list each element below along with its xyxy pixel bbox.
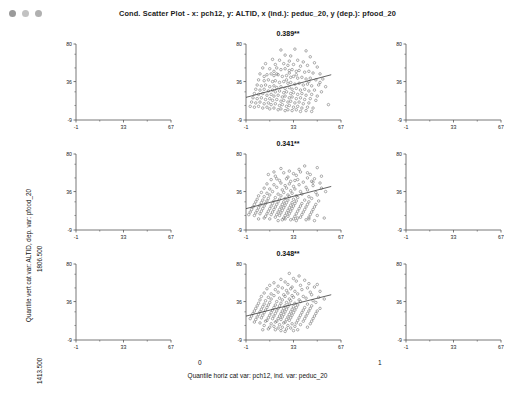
svg-text:67: 67: [338, 344, 344, 350]
scatter-points: [249, 272, 326, 333]
panel-axes: -93680-13367: [392, 250, 504, 358]
y-quantile-top-label: 1806.500: [36, 246, 43, 272]
svg-text:-1: -1: [404, 234, 409, 240]
window-title: Cond. Scatter Plot - x: pch12, y: ALTID,…: [0, 9, 515, 18]
svg-text:36: 36: [396, 299, 402, 305]
svg-text:-1: -1: [74, 344, 79, 350]
svg-text:-1: -1: [404, 344, 409, 350]
svg-text:-9: -9: [67, 117, 72, 123]
svg-text:33: 33: [291, 234, 297, 240]
y-axis-caption-block: Quantile vert cat var: ALTID, dep. var: …: [14, 122, 48, 322]
panel-axes: -93680-13367: [392, 140, 504, 248]
svg-text:67: 67: [338, 124, 344, 130]
svg-text:-9: -9: [237, 117, 242, 123]
svg-text:67: 67: [168, 344, 174, 350]
svg-text:-1: -1: [244, 234, 249, 240]
svg-text:67: 67: [338, 234, 344, 240]
svg-text:-1: -1: [74, 234, 79, 240]
title-bar: Cond. Scatter Plot - x: pch12, y: ALTID,…: [0, 0, 515, 27]
svg-text:-9: -9: [237, 227, 242, 233]
app-window: Cond. Scatter Plot - x: pch12, y: ALTID,…: [0, 0, 515, 404]
svg-text:36: 36: [236, 299, 242, 305]
scatter-points: [249, 48, 330, 113]
svg-text:67: 67: [498, 124, 504, 130]
svg-text:-9: -9: [237, 337, 242, 343]
x-axis-caption: Quantile horiz cat var: pch12, ind. var:…: [0, 372, 515, 379]
panel-axes: -93680-13367: [392, 30, 504, 138]
svg-text:67: 67: [168, 234, 174, 240]
svg-text:33: 33: [451, 344, 457, 350]
y-axis-caption: Quantile vert cat var: ALTID, dep. var: …: [25, 189, 32, 322]
svg-text:33: 33: [121, 234, 127, 240]
svg-text:-1: -1: [244, 344, 249, 350]
svg-text:-1: -1: [244, 124, 249, 130]
svg-text:36: 36: [396, 79, 402, 85]
panel-axes: -93680-13367: [232, 250, 344, 358]
svg-text:80: 80: [236, 41, 242, 47]
svg-text:-9: -9: [67, 227, 72, 233]
svg-text:36: 36: [66, 299, 72, 305]
scatter-panel-r2-c2: -93680-13367: [392, 250, 504, 358]
svg-text:80: 80: [396, 151, 402, 157]
svg-text:36: 36: [236, 79, 242, 85]
svg-text:33: 33: [291, 124, 297, 130]
plot-canvas: -93680-133670.389**-93680-13367-93680-13…: [0, 27, 515, 404]
x-quantile-right-label: 1: [378, 359, 382, 366]
svg-text:-1: -1: [74, 124, 79, 130]
scatter-panel-r1-c0: -93680-13367: [62, 140, 174, 248]
panel-axes: -93680-13367: [62, 250, 174, 358]
svg-text:80: 80: [236, 151, 242, 157]
panel-axes: -93680-13367: [232, 140, 344, 248]
scatter-panel-r0-c0: -93680-13367: [62, 30, 174, 138]
svg-text:67: 67: [498, 344, 504, 350]
svg-text:36: 36: [396, 189, 402, 195]
panel-axes: -93680-13367: [62, 140, 174, 248]
svg-text:33: 33: [121, 344, 127, 350]
regression-line: [246, 186, 331, 208]
svg-text:33: 33: [451, 234, 457, 240]
svg-text:80: 80: [66, 151, 72, 157]
panel-axes: -93680-13367: [62, 30, 174, 138]
scatter-panel-r2-c0: -93680-13367: [62, 250, 174, 358]
svg-text:67: 67: [498, 234, 504, 240]
svg-text:-9: -9: [397, 117, 402, 123]
svg-text:80: 80: [236, 261, 242, 267]
svg-text:80: 80: [66, 41, 72, 47]
svg-text:67: 67: [168, 124, 174, 130]
svg-text:33: 33: [121, 124, 127, 130]
svg-text:-9: -9: [67, 337, 72, 343]
y-quantile-bottom-label: 1413.500: [36, 358, 43, 384]
svg-text:36: 36: [66, 79, 72, 85]
svg-text:-9: -9: [397, 337, 402, 343]
scatter-panel-r0-c1: 0.389**-93680-13367: [232, 30, 344, 138]
scatter-panel-r2-c1: 0.348**-93680-13367: [232, 250, 344, 358]
svg-text:-9: -9: [397, 227, 402, 233]
scatter-points: [248, 165, 327, 222]
svg-text:-1: -1: [404, 124, 409, 130]
svg-text:36: 36: [236, 189, 242, 195]
scatter-panel-r1-c2: -93680-13367: [392, 140, 504, 248]
panel-grid: -93680-133670.389**-93680-13367-93680-13…: [0, 27, 515, 404]
svg-text:80: 80: [396, 261, 402, 267]
scatter-panel-r1-c1: 0.341**-93680-13367: [232, 140, 344, 248]
x-quantile-left-label: 0: [198, 359, 202, 366]
svg-text:33: 33: [451, 124, 457, 130]
svg-text:80: 80: [396, 41, 402, 47]
scatter-panel-r0-c2: -93680-13367: [392, 30, 504, 138]
svg-text:33: 33: [291, 344, 297, 350]
svg-text:80: 80: [66, 261, 72, 267]
svg-text:36: 36: [66, 189, 72, 195]
panel-axes: -93680-13367: [232, 30, 344, 138]
